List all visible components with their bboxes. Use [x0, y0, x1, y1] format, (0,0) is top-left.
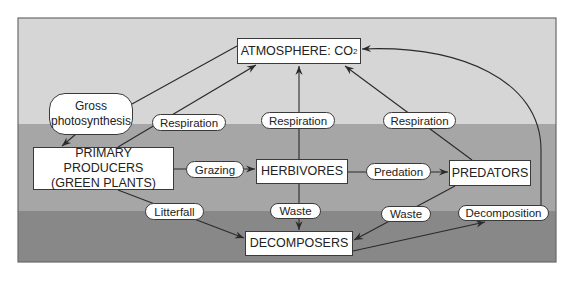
grazing-label: Grazing — [186, 161, 244, 178]
producers-label-line1: PRIMARY PRODUCERS — [34, 146, 173, 176]
predators-node: PREDATORS — [449, 160, 531, 186]
respiration-producers-label: Respiration — [152, 114, 226, 131]
producers-label-line2: (GREEN PLANTS) — [51, 176, 156, 191]
decomposition-label: Decomposition — [458, 205, 549, 221]
predation-label: Predation — [366, 163, 431, 180]
respiration-predators-label: Respiration — [383, 112, 456, 129]
primary-producers-node: PRIMARY PRODUCERS (GREEN PLANTS) — [33, 147, 174, 190]
waste-herbivores-label: Waste — [270, 203, 321, 219]
gross-photosynthesis-line2: photosynthesis — [51, 114, 131, 129]
gross-photosynthesis-line1: Gross — [75, 99, 107, 114]
decomposers-node: DECOMPOSERS — [245, 231, 353, 256]
litterfall-label: Litterfall — [145, 203, 204, 220]
herbivores-label: HERBIVORES — [261, 164, 343, 179]
atmosphere-co2-node: ATMOSPHERE: CO2 — [237, 38, 361, 64]
herbivores-node: HERBIVORES — [256, 159, 348, 184]
respiration-herbivores-label: Respiration — [261, 112, 335, 129]
waste-predators-label: Waste — [381, 206, 431, 222]
decomposers-label: DECOMPOSERS — [250, 236, 349, 251]
atmosphere-subscript: 2 — [353, 44, 357, 59]
predators-label: PREDATORS — [452, 166, 529, 181]
atmosphere-label: ATMOSPHERE: CO — [241, 44, 353, 59]
gross-photosynthesis-label: Gross photosynthesis — [49, 93, 133, 135]
